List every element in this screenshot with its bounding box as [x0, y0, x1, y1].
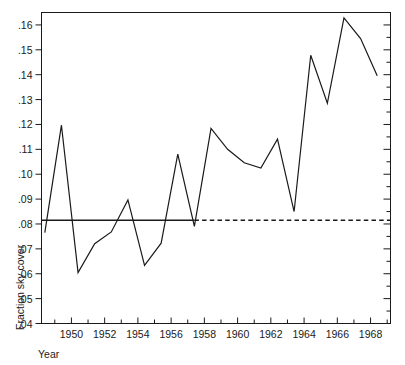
x-tick-label: 1952 [93, 329, 116, 340]
y-axis-title: Fraction sky cover [14, 245, 26, 330]
chart-plot-area [0, 0, 405, 365]
x-tick-label: 1968 [359, 329, 382, 340]
y-tick-label: .11 [19, 144, 33, 155]
y-tick-label: .14 [18, 69, 33, 80]
x-tick-label: 1950 [60, 329, 83, 340]
data-series-line [45, 18, 377, 273]
x-tick-label: 1964 [292, 329, 315, 340]
x-tick-label: 1958 [193, 329, 216, 340]
x-tick-label: 1960 [226, 329, 249, 340]
x-tick-label: 1954 [126, 329, 149, 340]
x-tick-label: 1962 [259, 329, 282, 340]
y-axis-ticks [36, 25, 391, 324]
chart-figure: .16.15.14.13.12.11.10.09.08.07.06.05.04 … [0, 0, 405, 365]
y-tick-label: .08 [18, 218, 33, 229]
y-tick-label: .13 [18, 94, 33, 105]
x-axis-ticks [55, 318, 387, 324]
y-tick-label: .09 [18, 194, 33, 205]
y-tick-label: .15 [18, 44, 33, 55]
y-tick-label: .16 [18, 19, 33, 30]
y-tick-label: .12 [18, 119, 33, 130]
x-tick-label: 1966 [326, 329, 349, 340]
x-tick-label: 1956 [159, 329, 182, 340]
axis-frame [42, 13, 391, 324]
y-tick-label: .10 [18, 169, 33, 180]
x-axis-title: Year [38, 348, 59, 360]
